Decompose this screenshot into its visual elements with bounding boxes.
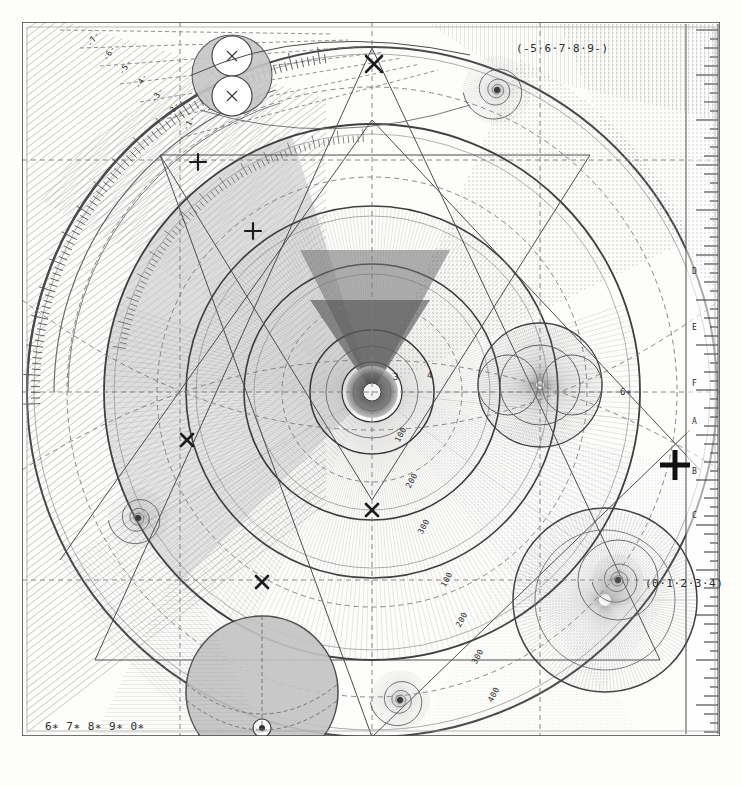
ruler-letter-c: C <box>692 512 697 520</box>
ruler-letter-b: B <box>692 468 697 476</box>
caption-top: (-5·6·7·8·9-) <box>516 43 609 54</box>
center-number-4: 4 <box>427 371 433 380</box>
diagram-canvas: (-5·6·7·8·9-) (0·1·2·3·4) 6∗ 7∗ 8∗ 9∗ 0∗… <box>0 0 742 786</box>
ruler-letter-f: F <box>692 380 697 388</box>
ruler-letter-d: D <box>692 268 697 276</box>
ruler-letter-e: E <box>692 324 697 332</box>
caption-bottom-left: 6∗ 7∗ 8∗ 9∗ 0∗ <box>45 721 145 732</box>
caption-bottom-right: (0·1·2·3·4) <box>645 578 723 589</box>
ruler-letter-a: A <box>692 418 697 426</box>
center-number-3: 3 <box>393 373 399 382</box>
label-mid-right: 6∗ <box>620 388 632 397</box>
